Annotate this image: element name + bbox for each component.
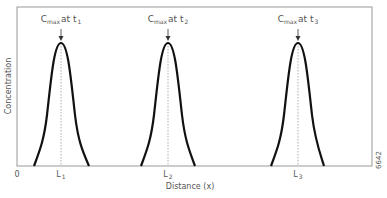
peak-3-curve (271, 43, 324, 166)
origin-label: 0 (14, 170, 19, 179)
figure-id: 6642 (375, 151, 383, 169)
peak-2-label: Cmaxat t2 (148, 14, 189, 25)
x-axis-label: Distance (x) (166, 182, 215, 191)
arrow-down-icon (59, 36, 64, 41)
peak-3: Cmaxat t3 L3 (271, 14, 324, 180)
y-axis-label: Concentration (4, 58, 13, 115)
peak-2: Cmaxat t2 L2 (141, 14, 195, 180)
peak-3-label: Cmaxat t3 (278, 14, 319, 25)
plot-frame (17, 7, 372, 166)
concentration-diagram: Concentration 0 Distance (x) 6642 Cmaxat… (0, 0, 387, 198)
peak-1: Cmaxat t1 L1 (34, 14, 89, 180)
position-label-2: L2 (163, 170, 172, 180)
peak-1-curve (34, 43, 89, 166)
arrow-down-icon (166, 36, 171, 41)
peak-1-label: Cmaxat t1 (41, 14, 82, 25)
position-label-1: L1 (56, 170, 65, 180)
arrow-down-icon (296, 36, 301, 41)
position-label-3: L3 (293, 170, 302, 180)
